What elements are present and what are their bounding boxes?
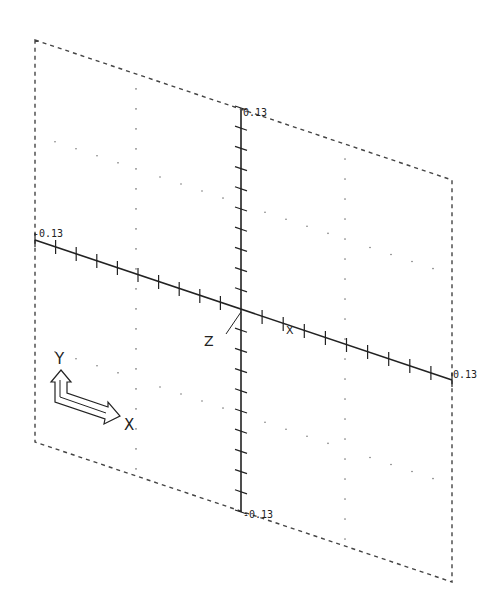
x-min-label: -0.13 [33, 228, 63, 239]
ucs-y-label: Y [54, 350, 65, 368]
y-max-label: 0.13 [243, 107, 267, 118]
coordinate-axes [35, 106, 452, 514]
x-axis-marker: X [286, 324, 294, 337]
z-axis-label: Z [204, 333, 214, 349]
viewport-plane-border [35, 40, 452, 582]
x-max-label: 0.13 [453, 369, 477, 380]
y-min-label: -0.13 [243, 509, 273, 520]
ucs-x-label: X [124, 416, 134, 434]
drawing-canvas[interactable]: 0.13 -0.13 -0.13 0.13 Z X Y X [0, 0, 495, 609]
z-axis-indicator: Z [204, 312, 241, 349]
ucs-icon: Y X [51, 350, 134, 434]
